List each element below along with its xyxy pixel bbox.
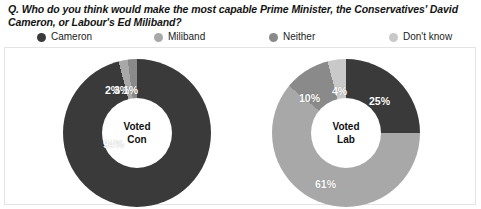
donut-center-line1-con: Voted — [123, 120, 150, 133]
slice-value-con-dont-know: 1% — [123, 84, 138, 96]
slice-value-lab-neither: 10% — [299, 92, 320, 104]
legend-item-neither: Neither — [269, 31, 315, 43]
legend-swatch-miliband-icon — [154, 33, 163, 42]
legend-item-dont-know: Don't know — [389, 31, 452, 43]
legend-label-cameron: Cameron — [51, 31, 92, 43]
slice-value-con-cameron: 94% — [103, 138, 124, 150]
slice-value-lab-cameron: 25% — [369, 95, 390, 107]
legend-label-miliband: Miliband — [168, 31, 205, 43]
donut-center-label-voted-lab: Voted Lab — [311, 98, 381, 168]
legend-label-dont-know: Don't know — [403, 31, 452, 43]
page-title: Q. Who do you think would make the most … — [8, 3, 470, 28]
legend-item-cameron: Cameron — [37, 31, 92, 43]
chart-legend: Cameron Miliband Neither Don't know — [0, 30, 481, 46]
legend-swatch-cameron-icon — [37, 33, 46, 42]
legend-swatch-dont-know-icon — [389, 33, 398, 42]
donut-center-line2-con: Con — [127, 133, 146, 146]
donut-chart-voted-lab: Voted Lab 25% 61% 10% 4% — [272, 59, 420, 207]
legend-swatch-neither-icon — [269, 33, 278, 42]
legend-label-neither: Neither — [283, 31, 315, 43]
slice-value-lab-dont-know: 4% — [332, 85, 347, 97]
donut-center-line2-lab: Lab — [337, 133, 355, 146]
donut-center-line1-lab: Voted — [332, 120, 359, 133]
donut-center-label-voted-con: Voted Con — [102, 98, 172, 168]
donut-chart-voted-con: Voted Con 94% 2% 3% 1% — [63, 59, 211, 207]
slice-value-lab-miliband: 61% — [315, 178, 336, 190]
legend-item-miliband: Miliband — [154, 31, 205, 43]
